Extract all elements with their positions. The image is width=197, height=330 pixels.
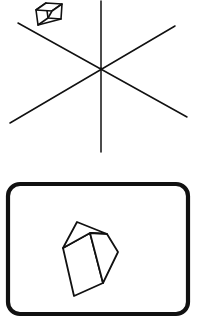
small-cube [36,3,62,25]
diagonal-ray-downleft-to-upright [10,26,175,123]
figure-canvas [0,0,197,330]
asterisk-panel [10,1,187,152]
figure-root [0,0,197,330]
large-cube [63,222,118,296]
framed-cube-panel [8,184,188,314]
